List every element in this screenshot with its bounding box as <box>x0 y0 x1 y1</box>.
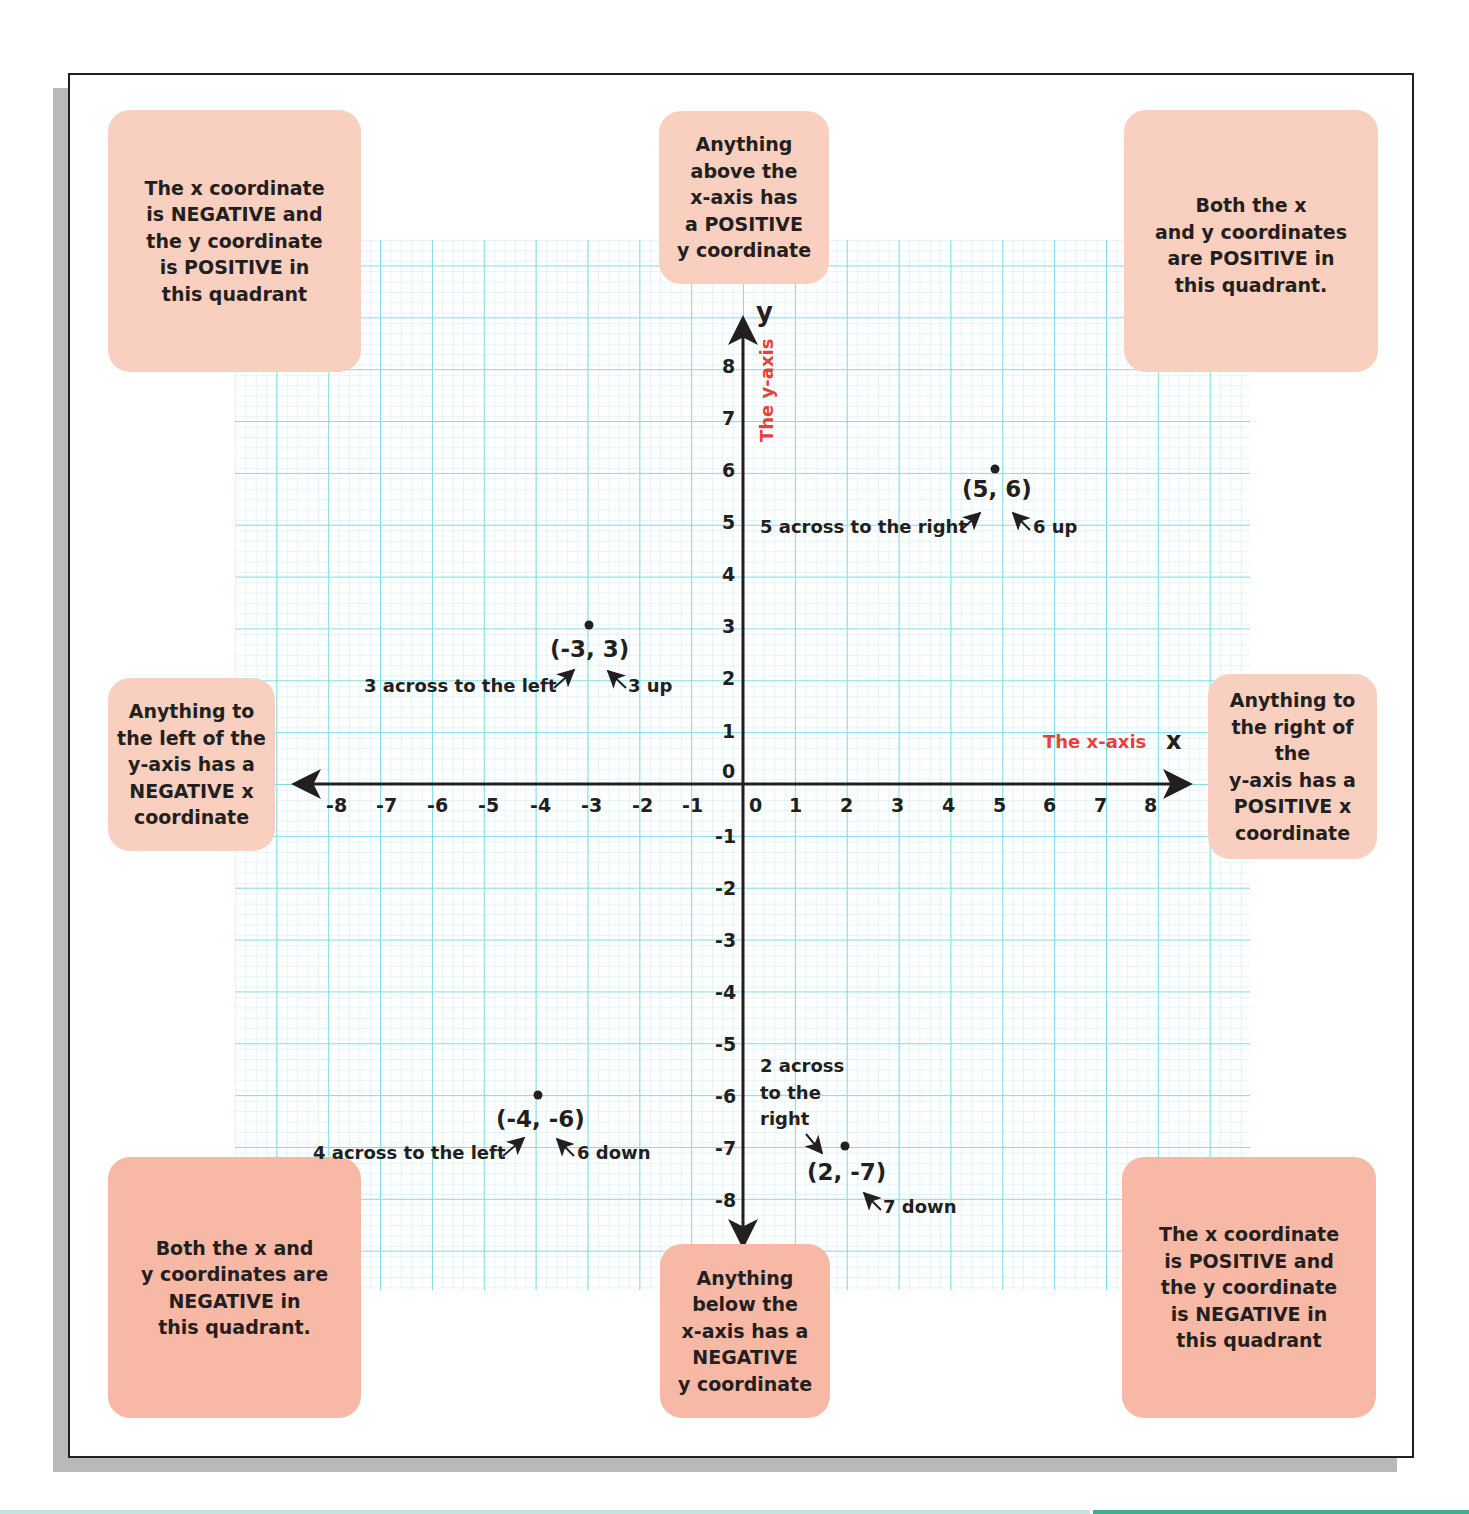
x-tick: 5 <box>993 794 1006 816</box>
y-tick: -2 <box>715 877 736 899</box>
point-across-note: 3 across to the left <box>364 675 557 696</box>
point-5-6 <box>991 465 1000 474</box>
x-tick: -8 <box>326 794 347 816</box>
y-tick: -4 <box>715 981 736 1003</box>
box-bottom-left-quadrant: Both the x and y coordinates are NEGATIV… <box>108 1157 361 1418</box>
x-tick: -1 <box>682 794 703 816</box>
origin-x-label: 0 <box>749 794 762 816</box>
y-tick: -7 <box>715 1137 736 1159</box>
point-label: (2, -7) <box>807 1159 886 1185</box>
point-across-note: 5 across to the right <box>760 516 967 537</box>
x-tick: 3 <box>891 794 904 816</box>
x-tick: -6 <box>427 794 448 816</box>
box-left-of-y-axis: Anything to the left of the y-axis has a… <box>108 678 275 851</box>
origin-y-label: 0 <box>722 760 735 782</box>
x-tick: -5 <box>478 794 499 816</box>
y-tick: 5 <box>722 511 735 533</box>
point-updown-note: 6 up <box>1033 516 1078 537</box>
point-across-note: 2 across to the right <box>760 1053 844 1133</box>
box-bottom-right-quadrant: The x coordinate is POSITIVE and the y c… <box>1122 1157 1376 1418</box>
y-tick: -8 <box>715 1189 736 1211</box>
y-tick: 8 <box>722 355 735 377</box>
x-tick: -4 <box>530 794 551 816</box>
x-tick: 4 <box>942 794 955 816</box>
point-label: (-4, -6) <box>496 1106 585 1132</box>
y-tick: 2 <box>722 667 735 689</box>
point-updown-note: 7 down <box>883 1196 957 1217</box>
x-tick: -7 <box>376 794 397 816</box>
y-tick: 7 <box>722 407 735 429</box>
x-tick: -3 <box>581 794 602 816</box>
y-tick: 4 <box>722 563 735 585</box>
point-label: (-3, 3) <box>550 636 629 662</box>
y-tick: -3 <box>715 929 736 951</box>
box-top-left-quadrant: The x coordinate is NEGATIVE and the y c… <box>108 110 361 372</box>
x-tick: 8 <box>1144 794 1157 816</box>
point-updown-note: 6 down <box>577 1142 651 1163</box>
x-axis-symbol: x <box>1166 727 1181 755</box>
point-across-note: 4 across to the left <box>313 1142 506 1163</box>
box-above-x-axis: Anything above the x-axis has a POSITIVE… <box>659 111 829 284</box>
x-tick: 2 <box>840 794 853 816</box>
y-tick: 6 <box>722 459 735 481</box>
box-right-of-y-axis: Anything to the right of the y-axis has … <box>1208 674 1377 859</box>
y-tick: -5 <box>715 1033 736 1055</box>
y-axis-symbol: y <box>756 297 773 327</box>
x-axis-label: The x-axis <box>1043 731 1146 752</box>
point-updown-note: 3 up <box>628 675 673 696</box>
y-tick: 1 <box>722 720 735 742</box>
point-2-neg7 <box>841 1142 850 1151</box>
x-tick: 1 <box>789 794 802 816</box>
x-tick: 6 <box>1043 794 1056 816</box>
x-tick: -2 <box>632 794 653 816</box>
x-tick: 7 <box>1094 794 1107 816</box>
point-neg4-neg6 <box>534 1091 543 1100</box>
y-tick: 3 <box>722 615 735 637</box>
y-tick: -6 <box>715 1085 736 1107</box>
point-neg3-3 <box>585 621 594 630</box>
box-top-right-quadrant: Both the x and y coordinates are POSITIV… <box>1124 110 1378 372</box>
y-tick: -1 <box>715 825 736 847</box>
point-label: (5, 6) <box>962 476 1032 502</box>
box-below-x-axis: Anything below the x-axis has a NEGATIVE… <box>660 1244 830 1418</box>
